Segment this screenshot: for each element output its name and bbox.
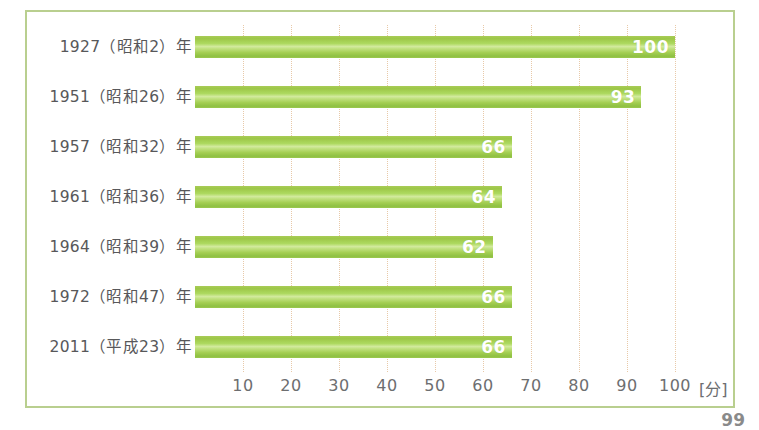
bar-row: 1957（昭和32）年66	[27, 135, 737, 159]
bar-row: 2011（平成23）年66	[27, 335, 737, 359]
bar-value-label: 62	[462, 236, 487, 258]
bar-track: 62	[195, 235, 493, 259]
bar[interactable]	[195, 186, 502, 208]
x-tick-label-80: 80	[568, 376, 589, 395]
bar-value-label: 100	[632, 36, 669, 58]
page-number: 99	[721, 410, 745, 430]
category-label: 1964（昭和39）年	[50, 235, 192, 259]
plot-area: 1927（昭和2）年1001951（昭和26）年931957（昭和32）年661…	[27, 12, 737, 410]
bar-track: 100	[195, 35, 675, 59]
bar-value-label: 66	[481, 136, 506, 158]
bar[interactable]	[195, 36, 675, 58]
category-label: 1972（昭和47）年	[50, 285, 192, 309]
bar-row: 1961（昭和36）年64	[27, 185, 737, 209]
bar[interactable]	[195, 236, 493, 258]
x-tick-label-30: 30	[328, 376, 349, 395]
x-tick-label-10: 10	[232, 376, 253, 395]
bar-track: 66	[195, 335, 512, 359]
bar-row: 1972（昭和47）年66	[27, 285, 737, 309]
x-axis: 102030405060708090100 [分]	[27, 372, 737, 406]
bar-track: 64	[195, 185, 502, 209]
category-label: 1961（昭和36）年	[50, 185, 192, 209]
bar-row: 1964（昭和39）年62	[27, 235, 737, 259]
category-label: 1927（昭和2）年	[60, 35, 192, 59]
bar-value-label: 66	[481, 286, 506, 308]
bar-track: 66	[195, 285, 512, 309]
x-tick-label-100: 100	[659, 376, 691, 395]
x-tick-label-50: 50	[424, 376, 445, 395]
bar[interactable]	[195, 86, 641, 108]
bar-value-label: 66	[481, 336, 506, 358]
bar-row: 1951（昭和26）年93	[27, 85, 737, 109]
chart-frame: 1927（昭和2）年1001951（昭和26）年931957（昭和32）年661…	[25, 10, 735, 408]
bar[interactable]	[195, 286, 512, 308]
bar[interactable]	[195, 336, 512, 358]
bar-row: 1927（昭和2）年100	[27, 35, 737, 59]
x-tick-label-60: 60	[472, 376, 493, 395]
x-axis-unit-label: [分]	[699, 376, 727, 400]
x-tick-label-20: 20	[280, 376, 301, 395]
bar-value-label: 93	[611, 86, 636, 108]
x-tick-label-40: 40	[376, 376, 397, 395]
bar-track: 93	[195, 85, 641, 109]
bar-track: 66	[195, 135, 512, 159]
category-label: 1957（昭和32）年	[50, 135, 192, 159]
bar[interactable]	[195, 136, 512, 158]
category-label: 2011（平成23）年	[50, 335, 192, 359]
category-label: 1951（昭和26）年	[50, 85, 192, 109]
bar-value-label: 64	[472, 186, 497, 208]
x-tick-label-70: 70	[520, 376, 541, 395]
x-tick-label-90: 90	[616, 376, 637, 395]
